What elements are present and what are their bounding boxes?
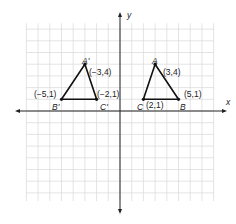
y-axis-up-arrow-icon <box>118 12 122 17</box>
x-axis-label: x <box>226 98 230 107</box>
vertex-b-coord: (5,1) <box>184 90 201 99</box>
coordinate-plane-diagram: y x A (3,4) B (5,1) C (2,1) A' (−3,4) B'… <box>0 0 236 224</box>
vertex-a-prime-coord: (−3,4) <box>89 68 111 77</box>
vertex-b-prime-label: B' <box>52 103 59 112</box>
y-axis-down-arrow-icon <box>118 209 122 214</box>
vertex-a-coord: (3,4) <box>163 68 180 77</box>
y-axis-label: y <box>127 11 131 20</box>
vertex-c-prime-coord: (−2,1) <box>97 90 119 99</box>
vertex-c-label: C <box>137 103 143 112</box>
vertex-point <box>142 98 145 101</box>
vertex-c-coord: (2,1) <box>146 101 163 110</box>
vertex-b-label: B <box>180 103 186 112</box>
vertex-c-prime-label: C' <box>100 103 108 112</box>
vertex-a-label: A <box>152 57 158 66</box>
grid-and-axes <box>0 0 236 224</box>
vertex-b-prime-coord: (−5,1) <box>34 90 56 99</box>
vertex-point <box>177 98 180 101</box>
vertex-point <box>60 98 63 101</box>
x-axis-right-arrow-icon <box>222 109 227 113</box>
vertex-a-prime-label: A' <box>82 57 89 66</box>
x-axis-left-arrow-icon <box>15 109 20 113</box>
